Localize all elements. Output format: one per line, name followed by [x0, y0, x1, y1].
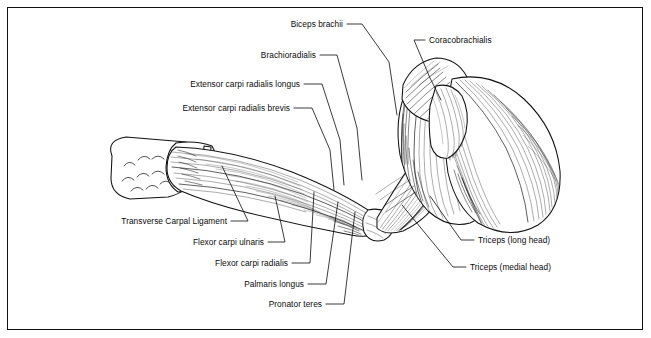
label-triceps-long-head: Triceps (long head) [478, 235, 550, 245]
label-extensor-carpi-radialis-brevis: Extensor carpi radialis brevis [182, 103, 290, 113]
arm-anatomy-figure: Biceps brachii Brachioradialis Extensor … [0, 0, 651, 338]
label-extensor-carpi-radialis-longus: Extensor carpi radialis longus [190, 79, 300, 89]
label-triceps-medial-head: Triceps (medial head) [470, 262, 551, 272]
label-flexor-carpi-ulnaris: Flexor carpi ulnaris [193, 237, 264, 247]
label-flexor-carpi-radialis: Flexor carpi radialis [215, 258, 288, 268]
label-biceps-brachii: Biceps brachii [291, 19, 343, 29]
leader-extensor-carpi-radialis-longus [304, 84, 344, 185]
leader-biceps-brachii [347, 24, 397, 115]
leader-brachioradialis [320, 55, 362, 180]
label-transverse-carpal-ligament: Transverse Carpal Ligament [121, 216, 227, 226]
label-coracobrachialis: Coracobrachialis [429, 35, 492, 45]
diagram-page: Biceps brachii Brachioradialis Extensor … [0, 0, 651, 338]
label-brachioradialis: Brachioradialis [261, 50, 316, 60]
label-palmaris-longus: Palmaris longus [244, 279, 304, 289]
label-pronator-teres: Pronator teres [269, 299, 322, 309]
